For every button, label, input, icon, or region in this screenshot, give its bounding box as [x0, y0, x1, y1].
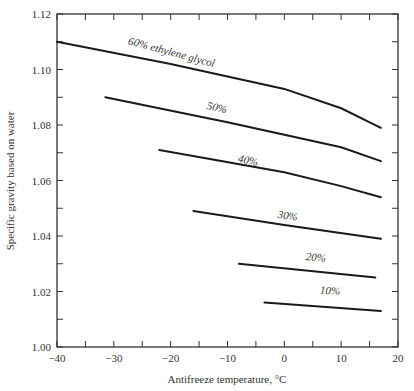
x-tick-label: −20	[162, 352, 180, 364]
x-tick-label: −40	[48, 352, 66, 364]
y-axis-title: Specific gravity based on water	[4, 111, 16, 250]
x-axis-title: Antifreeze temperature, °C	[168, 373, 287, 385]
curve-label: 10%	[320, 284, 341, 297]
curve-20-percent	[239, 264, 375, 278]
plot-frame	[57, 14, 398, 347]
curve-60-percent	[57, 42, 381, 128]
curve-label: 40%	[237, 152, 259, 168]
curve-label: 30%	[276, 208, 299, 223]
y-tick-label: 1.10	[32, 64, 52, 76]
x-tick-label: 10	[336, 352, 348, 364]
x-tick-label: 20	[393, 352, 405, 364]
curve-label: 50%	[206, 99, 228, 115]
y-tick-label: 1.04	[32, 230, 52, 242]
x-tick-label: −10	[219, 352, 237, 364]
curve-label: 20%	[305, 250, 326, 264]
curve-labels: 60% ethylene glycol50%40%30%20%10%	[127, 34, 341, 296]
x-tick-label: 0	[282, 352, 288, 364]
y-tick-label: 1.02	[32, 286, 51, 298]
curve-40-percent	[159, 150, 381, 197]
specific-gravity-chart: −40−30−20−10010201.001.021.041.061.081.1…	[0, 0, 414, 391]
y-tick-label: 1.00	[32, 341, 52, 353]
y-tick-label: 1.08	[32, 119, 52, 131]
y-tick-label: 1.06	[32, 175, 52, 187]
y-tick-label: 1.12	[32, 8, 51, 20]
curve-10-percent	[264, 303, 381, 311]
plot-axes: −40−30−20−10010201.001.021.041.061.081.1…	[32, 8, 404, 364]
x-tick-label: −30	[105, 352, 123, 364]
curve-group	[57, 42, 381, 311]
